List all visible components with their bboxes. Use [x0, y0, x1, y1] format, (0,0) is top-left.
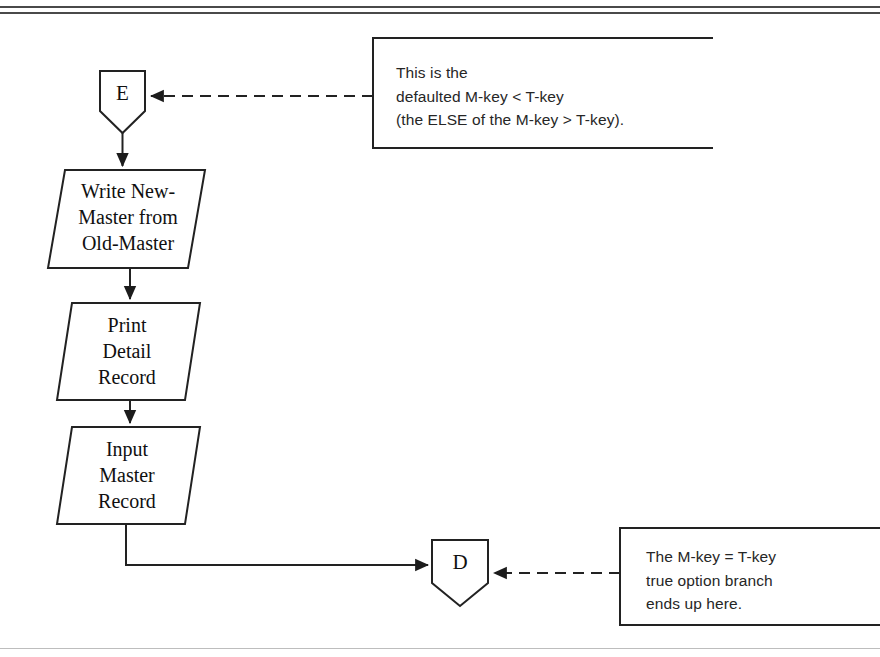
note-true-branch-text: The M-key = T-key true option branch end… — [646, 545, 876, 616]
connector-e-label: E — [100, 80, 145, 107]
node-print-detail-record-label: Print Detail Record — [57, 312, 197, 390]
note-else-branch-text: This is the defaulted M-key < T-key (the… — [396, 61, 706, 132]
node-write-new-master-label: Write New- Master from Old-Master — [53, 178, 203, 256]
page-canvas: E D Write New- Master from Old-Master Pr… — [0, 0, 880, 657]
connector-d-label: D — [432, 549, 488, 576]
edge-input-master-to-connector-d — [126, 524, 428, 565]
node-input-master-record-label: Input Master Record — [57, 436, 197, 514]
